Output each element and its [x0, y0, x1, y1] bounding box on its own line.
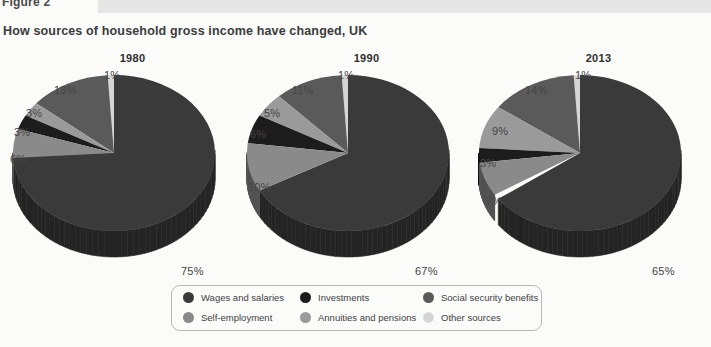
figure-band-fill	[98, 0, 711, 13]
legend-item[interactable]: Social security benefits	[423, 292, 538, 303]
pie-year-label: 1980	[14, 52, 251, 64]
legend-swatch-icon	[300, 292, 311, 303]
pie-slice-label: 7%	[486, 195, 502, 207]
pie-chart-1980: 19801%13%3%3%6%75%	[0, 52, 233, 277]
pie-slice-label: 14%	[525, 84, 548, 96]
legend-swatch-icon	[300, 312, 311, 323]
legend-label: Annuities and pensions	[318, 312, 416, 323]
pie-slice-label: 75%	[181, 265, 204, 277]
legend-item[interactable]: Wages and salaries	[183, 292, 284, 303]
legend-swatch-icon	[423, 292, 434, 303]
legend-item[interactable]: Other sources	[423, 312, 501, 323]
figure-band: Figure 2	[0, 0, 711, 13]
pie-year-label: 2013	[480, 52, 711, 64]
pie-slice-label: 3%	[14, 126, 30, 138]
pie-slice-label: 5%	[264, 107, 280, 119]
pie-slice-label: 6%	[10, 153, 26, 165]
pie-slice-label: 1%	[338, 69, 354, 81]
pie-slice-label: 67%	[415, 265, 438, 277]
pie-chart-2013: 20131%14%9%3%7%65%	[462, 52, 699, 277]
legend-label: Wages and salaries	[201, 292, 284, 303]
pie-slice-label: 6%	[250, 128, 266, 140]
pie-svg	[0, 65, 233, 265]
pie-slice-label: 65%	[652, 265, 675, 277]
pie-slice-label: 11%	[292, 84, 314, 96]
legend-label: Social security benefits	[441, 292, 538, 303]
legend-label: Self-employment	[201, 312, 272, 323]
pie-year-label: 1990	[248, 52, 485, 64]
legend-label: Investments	[318, 292, 369, 303]
pie-svg	[230, 65, 467, 265]
legend-item[interactable]: Self-employment	[183, 312, 272, 323]
pie-slice-label: 13%	[54, 84, 77, 96]
figure-label: Figure 2	[2, 0, 50, 9]
legend-label: Other sources	[441, 312, 501, 323]
pie-slice-label: 3%	[26, 107, 42, 119]
pie-slice-label: 1%	[104, 69, 120, 81]
legend: Wages and salariesInvestmentsSocial secu…	[171, 285, 542, 331]
pie-slice-label: 9%	[492, 125, 508, 137]
legend-swatch-icon	[423, 312, 434, 323]
pie-slice-label: 1%	[575, 69, 591, 81]
pie-svg	[462, 65, 699, 265]
legend-swatch-icon	[183, 292, 194, 303]
legend-item[interactable]: Annuities and pensions	[300, 312, 416, 323]
pie-chart-1990: 19901%11%5%6%10%67%	[230, 52, 467, 277]
pie-slice-label: 10%	[248, 181, 271, 193]
legend-swatch-icon	[183, 312, 194, 323]
page-title: How sources of household gross income ha…	[3, 24, 367, 38]
legend-item[interactable]: Investments	[300, 292, 369, 303]
pie-slice-label: 3%	[480, 157, 496, 169]
